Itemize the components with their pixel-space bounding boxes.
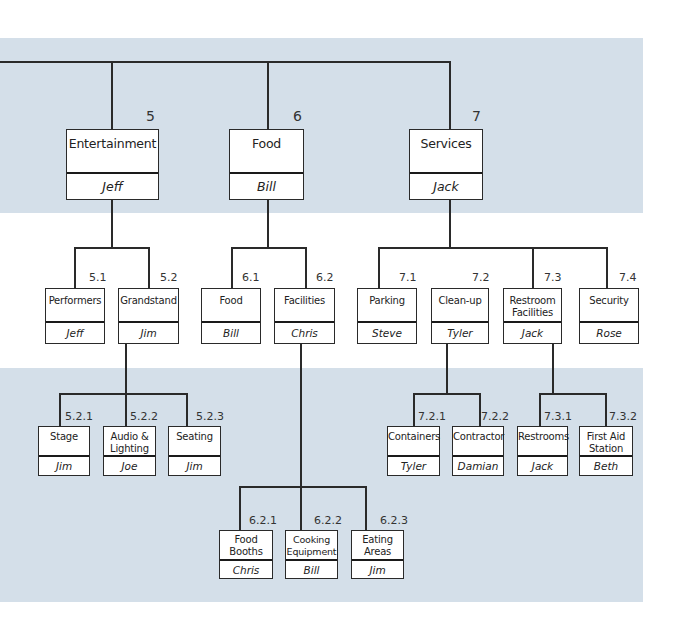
wbs-number: 6.2 <box>316 271 334 284</box>
wbs-number: 5.1 <box>89 271 107 284</box>
wbs-node-food-booths[interactable]: Food Booths Chris <box>219 530 273 579</box>
connector-6.2.3 <box>365 486 367 530</box>
wbs-node-services[interactable]: Services Jack <box>409 129 483 200</box>
node-title: Clean-up <box>432 289 488 321</box>
wbs-node-restrooms[interactable]: Restrooms Jack <box>517 426 568 476</box>
wbs-node-eating-areas[interactable]: Eating Areas Jim <box>351 530 404 579</box>
node-owner: Jim <box>119 321 178 343</box>
wbs-node-cooking-equipment[interactable]: Cooking Equipment Bill <box>285 530 338 579</box>
wbs-node-seating[interactable]: Seating Jim <box>168 426 221 476</box>
connector-7-down <box>449 200 451 248</box>
node-owner: Rose <box>580 321 638 343</box>
connector-7 <box>449 61 451 129</box>
node-owner: Jim <box>39 455 89 475</box>
node-owner: Jack <box>504 321 561 343</box>
wbs-node-security[interactable]: Security Rose <box>579 288 639 344</box>
node-title: Containers <box>388 427 439 455</box>
node-title: Food Booths <box>220 531 272 559</box>
node-title: Contractor <box>453 427 503 455</box>
wbs-node-entertainment[interactable]: Entertainment Jeff <box>66 129 159 200</box>
wbs-node-facilities[interactable]: Facilities Chris <box>274 288 335 344</box>
wbs-number: 5 <box>146 108 155 124</box>
wbs-node-food-6.1[interactable]: Food Bill <box>201 288 261 344</box>
node-title: Stage <box>39 427 89 455</box>
node-title: Food <box>202 289 260 321</box>
connector-7.3.1 <box>539 393 541 426</box>
wbs-node-clean-up[interactable]: Clean-up Tyler <box>431 288 489 344</box>
node-owner: Chris <box>220 559 272 578</box>
wbs-number: 7.2 <box>472 271 490 284</box>
connector-7.3-down <box>552 344 554 394</box>
node-title: Audio & Lighting <box>104 427 155 455</box>
wbs-number: 6.2.2 <box>314 514 342 527</box>
wbs-node-containers[interactable]: Containers Tyler <box>387 426 440 476</box>
wbs-node-audio-lighting[interactable]: Audio & Lighting Joe <box>103 426 156 476</box>
wbs-node-first-aid-station[interactable]: First Aid Station Beth <box>579 426 633 476</box>
connector-7.2.1 <box>413 393 415 426</box>
node-owner: Joe <box>104 455 155 475</box>
node-title: Parking <box>358 289 416 321</box>
connector-6-h <box>231 247 306 249</box>
wbs-node-parking[interactable]: Parking Steve <box>357 288 417 344</box>
node-owner: Jack <box>518 455 567 475</box>
connector-5.2.3 <box>186 393 188 426</box>
wbs-number: 7.2.1 <box>418 410 446 423</box>
wbs-number: 6.2.3 <box>380 514 408 527</box>
connector-7.2-h <box>413 393 480 395</box>
node-title: Security <box>580 289 638 321</box>
wbs-number: 7.3.1 <box>544 410 572 423</box>
node-owner: Jeff <box>46 321 104 343</box>
node-owner: Jeff <box>67 172 158 199</box>
node-owner: Bill <box>286 559 337 578</box>
wbs-number: 5.2.3 <box>196 410 224 423</box>
wbs-number: 7.2.2 <box>481 410 509 423</box>
wbs-number: 6.2.1 <box>249 514 277 527</box>
connector-5.2.1 <box>59 393 61 426</box>
node-title: Restrooms <box>518 427 567 455</box>
node-title: Restroom Facilities <box>504 289 561 321</box>
wbs-number: 5.2 <box>160 271 178 284</box>
top-connector <box>0 61 450 63</box>
connector-5.2 <box>148 247 150 288</box>
wbs-number: 7.3.2 <box>609 410 637 423</box>
connector-5-h <box>74 247 149 249</box>
node-owner: Damian <box>453 455 503 475</box>
connector-7.4 <box>606 247 608 288</box>
wbs-number: 7 <box>472 108 481 124</box>
node-owner: Jim <box>169 455 220 475</box>
node-title: First Aid Station <box>580 427 632 455</box>
connector-6.2-down <box>300 344 302 530</box>
connector-5 <box>111 61 113 129</box>
wbs-node-contractor[interactable]: Contractor Damian <box>452 426 504 476</box>
wbs-node-grandstand[interactable]: Grandstand Jim <box>118 288 179 344</box>
connector-5.1 <box>74 247 76 288</box>
connector-7.3 <box>532 247 534 288</box>
wbs-node-performers[interactable]: Performers Jeff <box>45 288 105 344</box>
connector-7.1 <box>378 247 380 288</box>
node-title: Facilities <box>275 289 334 321</box>
wbs-node-stage[interactable]: Stage Jim <box>38 426 90 476</box>
wbs-number: 6.1 <box>242 271 260 284</box>
wbs-number: 7.1 <box>399 271 417 284</box>
connector-6.2 <box>305 247 307 288</box>
node-owner: Beth <box>580 455 632 475</box>
connector-7-h <box>378 247 607 249</box>
node-owner: Bill <box>202 321 260 343</box>
wbs-number: 5.2.2 <box>130 410 158 423</box>
wbs-node-food[interactable]: Food Bill <box>229 129 304 200</box>
node-owner: Steve <box>358 321 416 343</box>
node-title: Cooking Equipment <box>286 531 337 559</box>
wbs-node-restroom-facilities[interactable]: Restroom Facilities Jack <box>503 288 562 344</box>
node-title: Performers <box>46 289 104 321</box>
node-owner: Tyler <box>388 455 439 475</box>
node-title: Seating <box>169 427 220 455</box>
node-owner: Chris <box>275 321 334 343</box>
connector-6.2-h <box>239 486 366 488</box>
node-owner: Jack <box>410 172 482 199</box>
node-title: Grandstand <box>119 289 178 321</box>
connector-7.2-down <box>446 344 448 394</box>
connector-5-down <box>111 200 113 248</box>
connector-5.2.2 <box>125 393 127 426</box>
node-title: Services <box>410 130 482 172</box>
connector-7.3.2 <box>605 393 607 426</box>
